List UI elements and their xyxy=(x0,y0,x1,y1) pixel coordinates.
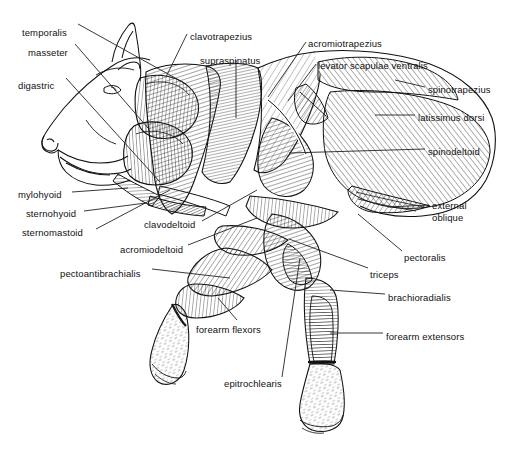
label-clavodeltoid: clavodeltoid xyxy=(144,219,195,230)
label-levator-scapulae-ventralis: levator scapulae ventralis xyxy=(318,60,428,71)
label-pectoralis: pectoralis xyxy=(404,252,446,263)
brow-line xyxy=(96,68,134,75)
leader-mylohyoid xyxy=(72,188,128,192)
label-masseter: masseter xyxy=(28,47,68,58)
label-clavotrapezius: clavotrapezius xyxy=(190,31,252,42)
label-epitrochlearis: epitrochlearis xyxy=(224,378,282,389)
nose-muzzle xyxy=(42,136,58,151)
nostril xyxy=(47,139,54,142)
label-brachioradialis: brachioradialis xyxy=(388,292,451,303)
supraspinatus-muscle xyxy=(202,63,262,183)
label-temporalis: temporalis xyxy=(22,27,67,38)
label-forearm-flexors: forearm flexors xyxy=(196,324,261,335)
label-mylohyoid: mylohyoid xyxy=(18,189,62,200)
label-pectoantibrachialis: pectoantibrachialis xyxy=(60,268,141,279)
leader-pectoralis xyxy=(358,214,402,251)
torso-group xyxy=(314,51,495,217)
label-digastric: digastric xyxy=(18,80,54,91)
near-forelimb xyxy=(300,278,345,433)
leader-sternohyoid xyxy=(84,203,146,211)
far-forelimb xyxy=(150,248,272,384)
label-acromiodeltoid: acromiodeltoid xyxy=(120,244,183,255)
label-sternohyoid: sternohyoid xyxy=(26,208,76,219)
label-spinodeltoid: spinodeltoid xyxy=(428,146,480,157)
label-triceps: triceps xyxy=(370,269,399,280)
illustration-canvas: temporalismasseterdigastricclavotrapeziu… xyxy=(0,0,509,458)
label-spinotrapezius: spinotrapezius xyxy=(428,84,491,95)
label-external-oblique: external oblique xyxy=(432,200,467,223)
ear-outline xyxy=(112,23,141,81)
label-forearm-extensors: forearm extensors xyxy=(386,331,464,342)
far-limb-paw xyxy=(150,304,189,384)
leader-brachioradialis xyxy=(330,290,385,294)
mouth-line xyxy=(58,150,128,163)
label-latissimus-dorsi: latissimus dorsi xyxy=(418,112,485,123)
label-supraspinatus: supraspinatus xyxy=(200,55,260,66)
label-acromiotrapezius: acromiotrapezius xyxy=(308,38,382,49)
cheek-contour xyxy=(86,120,116,144)
forearm-extensors-muscle xyxy=(310,296,333,362)
near-limb-paw xyxy=(300,363,345,431)
label-sternomastoid: sternomastoid xyxy=(22,227,83,238)
